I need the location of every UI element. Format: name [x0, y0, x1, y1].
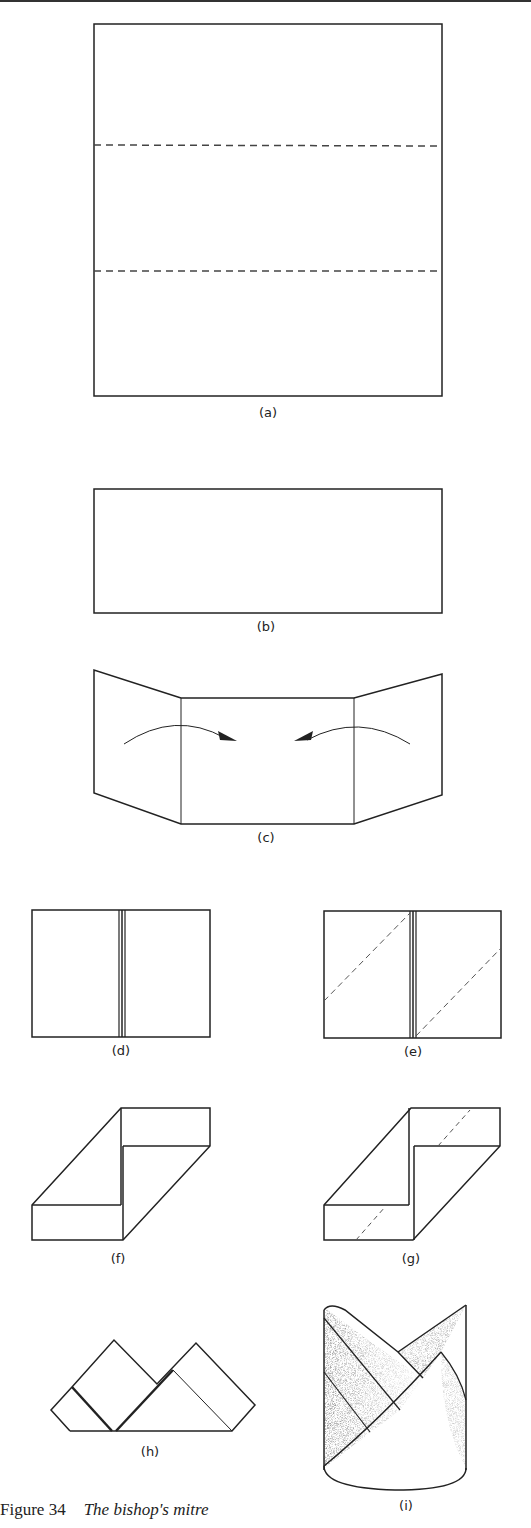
figure-number: Figure 34	[0, 1500, 66, 1519]
panel-d	[32, 910, 210, 1037]
origami-diagram	[0, 0, 531, 1528]
panel-label-f: (f)	[111, 1251, 126, 1266]
arrow-right-icon	[218, 731, 237, 741]
panel-label-c: (c)	[257, 830, 274, 845]
panel-label-i: (i)	[399, 1498, 413, 1513]
panel-i	[324, 1305, 466, 1490]
panel-label-a: (a)	[259, 405, 277, 420]
panel-e	[324, 911, 501, 1038]
panel-label-g: (g)	[402, 1251, 420, 1266]
panel-label-h: (h)	[141, 1444, 159, 1459]
panel-b	[94, 489, 442, 613]
panel-c	[94, 670, 442, 824]
panel-label-b: (b)	[257, 619, 275, 634]
panel-a	[94, 24, 442, 396]
panel-g	[324, 1108, 500, 1240]
panel-f	[32, 1108, 210, 1240]
panel-label-e: (e)	[404, 1044, 422, 1059]
figure-title: The bishop's mitre	[84, 1500, 209, 1519]
figure-caption: Figure 34The bishop's mitre	[0, 1500, 208, 1520]
panel-label-d: (d)	[112, 1043, 130, 1058]
panel-h	[51, 1340, 255, 1431]
arrow-left-icon	[294, 731, 313, 741]
